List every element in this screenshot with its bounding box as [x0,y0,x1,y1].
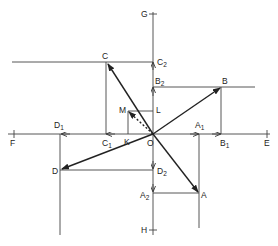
vector-diagram: O F E G H A B C D M K L A1 A2 B1 B2 C1 C… [0,0,278,246]
vector-ob [153,88,220,134]
label-a2: A2 [140,190,150,201]
label-k: K [124,137,130,147]
label-m: M [119,105,126,115]
label-e: E [264,138,270,148]
label-d: D [52,166,58,176]
label-f: F [10,138,15,148]
label-b2: B2 [155,76,165,87]
label-g: G [141,9,148,19]
label-c1: C1 [102,138,112,149]
vector-oa [153,134,198,192]
label-c: C [102,51,108,61]
label-h: H [141,225,147,235]
label-a1: A1 [195,120,205,131]
label-c2: C2 [157,57,167,68]
label-b: B [222,76,228,86]
label-a: A [201,190,207,200]
vector-oc [108,64,153,134]
label-d2: D2 [157,166,167,177]
label-o: O [147,138,154,148]
label-b1: B1 [220,138,230,149]
label-l: L [156,105,161,115]
label-d1: D1 [54,120,64,131]
